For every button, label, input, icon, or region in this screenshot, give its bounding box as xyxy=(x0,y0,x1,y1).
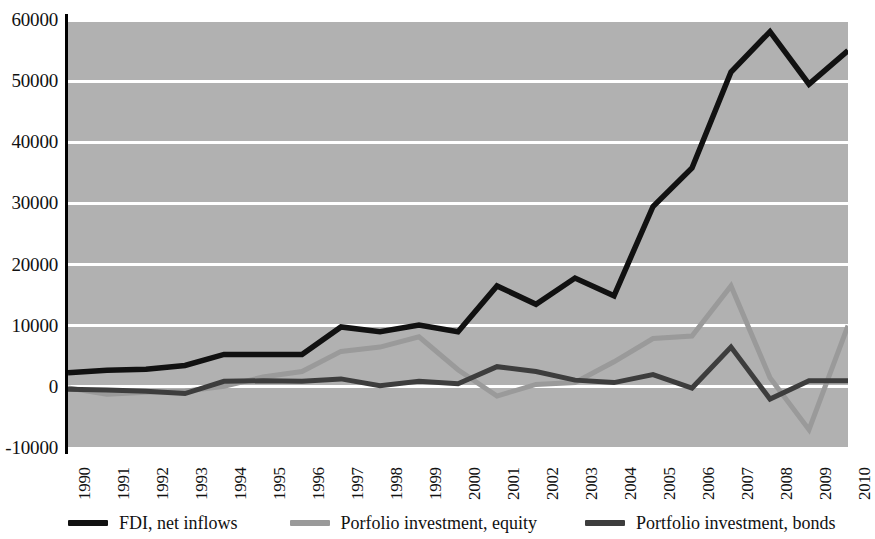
x-tick-label: 2003 xyxy=(582,467,602,500)
chart-legend: FDI, net inflowsPorfolio investment, equ… xyxy=(68,509,848,537)
legend-item[interactable]: FDI, net inflows xyxy=(68,513,238,534)
x-tick-label: 2007 xyxy=(738,467,758,500)
x-tick-label: 2010 xyxy=(855,467,875,500)
legend-label: Portfolio investment, bonds xyxy=(636,513,836,534)
legend-swatch-equity xyxy=(290,520,330,526)
legend-label: Porfolio investment, equity xyxy=(341,513,537,534)
plot-area xyxy=(68,20,848,448)
y-axis: -100000100002000030000400005000060000 xyxy=(0,0,64,460)
y-tick-label: 40000 xyxy=(11,131,58,153)
series-layer xyxy=(68,20,848,448)
x-tick-label: 1991 xyxy=(114,467,134,500)
x-tick-label: 2001 xyxy=(504,467,524,500)
y-tick-label: 30000 xyxy=(11,192,58,214)
x-tick-label: 2005 xyxy=(660,467,680,500)
y-tick-label: -10000 xyxy=(5,437,58,459)
x-tick-label: 2004 xyxy=(621,467,641,500)
x-tick-label: 1992 xyxy=(153,467,173,500)
y-tick-label: 20000 xyxy=(11,254,58,276)
y-tick-label: 10000 xyxy=(11,315,58,337)
series-line xyxy=(68,286,848,430)
x-tick-label: 2002 xyxy=(543,467,563,500)
x-tick-label: 1999 xyxy=(426,467,446,500)
legend-label: FDI, net inflows xyxy=(119,513,238,534)
series-line xyxy=(68,347,848,399)
legend-item[interactable]: Porfolio investment, equity xyxy=(290,513,537,534)
x-tick-label: 1993 xyxy=(192,467,212,500)
x-tick-label: 1996 xyxy=(309,467,329,500)
series-line xyxy=(68,32,848,373)
x-tick-label: 1997 xyxy=(348,467,368,500)
x-tick-label: 2006 xyxy=(699,467,719,500)
x-tick-label: 2008 xyxy=(777,467,797,500)
x-tick-label: 1998 xyxy=(387,467,407,500)
x-tick-label: 1994 xyxy=(231,467,251,500)
x-axis: 1990199119921993199419951996199719981999… xyxy=(68,452,848,506)
legend-swatch-bonds xyxy=(585,520,625,526)
x-tick-label: 1995 xyxy=(270,467,290,500)
x-tick-label: 2000 xyxy=(465,467,485,500)
x-tick-label: 1990 xyxy=(75,467,95,500)
legend-swatch-fdi xyxy=(68,520,108,526)
legend-item[interactable]: Portfolio investment, bonds xyxy=(585,513,836,534)
y-tick-label: 0 xyxy=(49,376,58,398)
y-tick-label: 50000 xyxy=(11,70,58,92)
x-tick-label: 2009 xyxy=(816,467,836,500)
y-tick-label: 60000 xyxy=(11,9,58,31)
